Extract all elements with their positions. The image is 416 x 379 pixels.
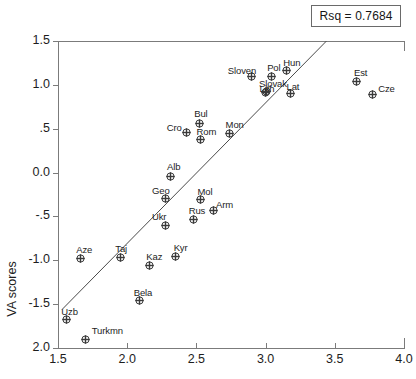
y-axis-tick-label: .5 bbox=[40, 121, 50, 135]
y-axis-tick bbox=[53, 304, 59, 305]
x-axis-tick bbox=[404, 343, 405, 349]
data-point-label: Pol bbox=[267, 62, 280, 73]
data-point-label: Est bbox=[354, 67, 367, 78]
x-axis-tick-label: 2.5 bbox=[188, 352, 205, 366]
data-point-label: Ukr bbox=[152, 211, 166, 222]
data-point-label: Bul bbox=[194, 108, 207, 119]
y-axis-tick-label: 1.5 bbox=[33, 33, 50, 47]
data-point-label: Rom bbox=[197, 126, 217, 137]
data-point-label: Turkmn bbox=[92, 325, 123, 336]
data-point-marker bbox=[225, 129, 234, 138]
x-axis-tick bbox=[266, 343, 267, 349]
data-point-label: Sloven bbox=[228, 65, 256, 76]
data-point-label: Hun bbox=[283, 57, 300, 68]
x-axis-tick-label: 3.0 bbox=[257, 352, 274, 366]
data-point-marker bbox=[368, 90, 377, 99]
chart-root: Rsq = 0.7684 1.51.0.50.0-.5-1.0-1.52.0 1… bbox=[0, 0, 416, 379]
y-axis-tick-label: 2.0 bbox=[33, 340, 50, 354]
y-axis-tick-label: -.5 bbox=[35, 208, 50, 222]
y-axis-tick bbox=[53, 173, 59, 174]
data-point-label: Kyr bbox=[174, 242, 188, 253]
data-point-label: Cro bbox=[167, 122, 182, 133]
y-axis-tick bbox=[53, 85, 59, 86]
x-axis-tick-label: 4.0 bbox=[395, 352, 412, 366]
y-axis-line bbox=[58, 41, 59, 348]
y-axis-tick-label: 1.0 bbox=[33, 77, 50, 91]
data-point-label: Geo bbox=[152, 185, 170, 196]
data-point-label: Aze bbox=[76, 244, 92, 255]
data-point-label: Uzb bbox=[61, 306, 78, 317]
y-axis-tick bbox=[53, 216, 59, 217]
x-axis-tick-label: 2.0 bbox=[118, 352, 135, 366]
x-axis-tick-label: 3.5 bbox=[326, 352, 343, 366]
y-axis-tick-label: -1.0 bbox=[28, 252, 50, 266]
data-point-label: Bela bbox=[134, 287, 153, 298]
data-point-marker bbox=[81, 335, 90, 344]
plot-top-rule bbox=[58, 41, 405, 42]
y-axis-tick-label: 0.0 bbox=[33, 165, 50, 179]
data-point-marker bbox=[171, 252, 180, 261]
data-point-marker bbox=[166, 172, 175, 181]
x-axis-tick bbox=[127, 343, 128, 349]
data-point-label: Rus bbox=[189, 205, 206, 216]
data-point-marker bbox=[116, 253, 125, 262]
x-axis-tick-label: 1.5 bbox=[49, 352, 66, 366]
y-axis-tick bbox=[53, 129, 59, 130]
data-point-label: Alb bbox=[167, 161, 180, 172]
data-point-marker bbox=[76, 254, 85, 263]
y-axis-tick bbox=[53, 260, 59, 261]
x-axis-tick bbox=[196, 343, 197, 349]
y-axis-title: VA scores bbox=[5, 244, 19, 334]
data-point-label: Taj bbox=[115, 243, 127, 254]
data-point-label: Cze bbox=[378, 83, 395, 94]
x-axis-line bbox=[58, 348, 405, 349]
data-point-label: Mol bbox=[198, 186, 213, 197]
data-point-marker bbox=[145, 261, 154, 270]
x-axis-tick bbox=[58, 343, 59, 349]
y-axis-tick-label: -1.5 bbox=[28, 296, 50, 310]
data-point-label: Arm bbox=[216, 199, 233, 210]
data-point-label: Kaz bbox=[146, 251, 162, 262]
data-point-marker bbox=[182, 128, 191, 137]
data-point-label: Lat bbox=[287, 81, 300, 92]
data-point-label: Mon bbox=[226, 119, 244, 130]
x-axis-tick bbox=[335, 343, 336, 349]
right-axis-cap-top bbox=[404, 41, 405, 51]
y-axis-tick bbox=[53, 41, 59, 42]
scatter-plot: 1.51.0.50.0-.5-1.0-1.52.0 1.52.02.53.03.… bbox=[0, 0, 416, 379]
